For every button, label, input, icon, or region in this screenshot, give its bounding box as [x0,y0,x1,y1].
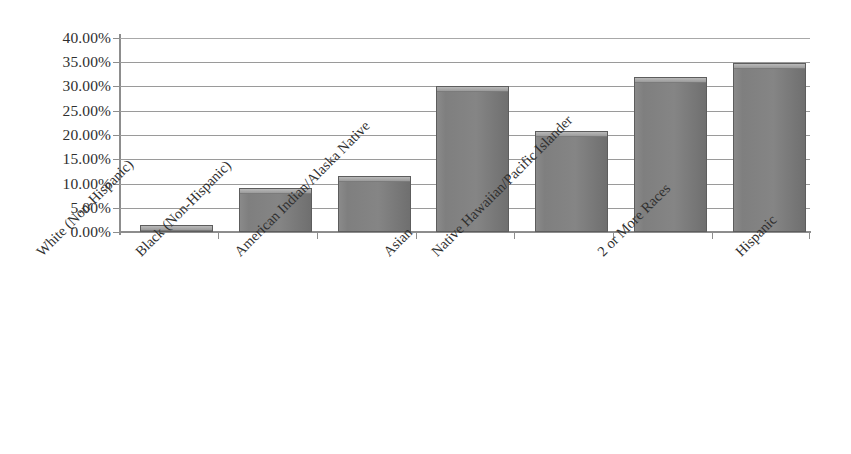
x-tick-2 [317,232,318,239]
y-axis-label-15: 15.00% [3,151,111,167]
gridline-35 [120,62,810,63]
bar-highlight-cap [339,177,410,182]
y-axis-label-30: 30.00% [3,78,111,94]
bar-highlight-cap [437,87,508,92]
bar-highlight-cap [635,78,706,83]
x-tick-1 [218,232,219,239]
x-tick-3 [416,232,417,239]
y-axis-label-25: 25.00% [3,103,111,119]
x-tick-7 [809,232,810,239]
x-tick-4 [514,232,515,239]
bar-highlight-cap [734,64,805,69]
bar-chart: 40.00% 35.00% 30.00% 25.00% 20.00% 15.00… [0,0,851,454]
bar-hispanic [733,63,806,232]
gridline-40 [120,38,810,39]
y-axis-label-40: 40.00% [3,30,111,46]
bar-american-indian-alaska-native [338,176,411,232]
x-tick-6 [712,232,713,239]
y-axis-label-20: 20.00% [3,127,111,143]
y-axis-label-35: 35.00% [3,54,111,70]
plot-area [120,38,810,232]
